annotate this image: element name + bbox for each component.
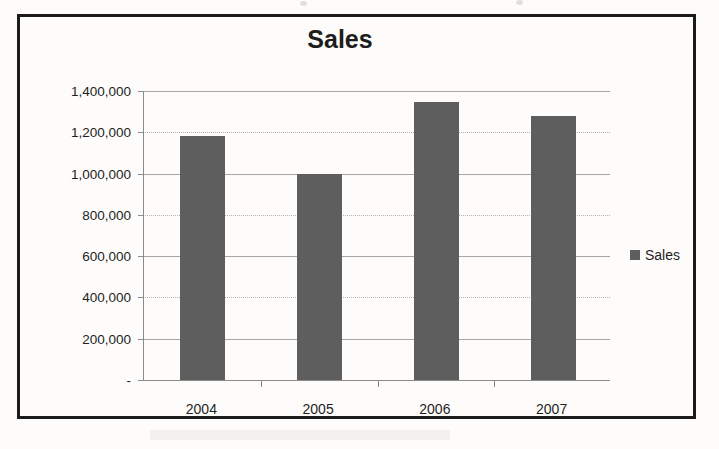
chart-title-container: Sales <box>60 25 620 54</box>
y-axis-tick-label: 800,000 <box>31 207 131 222</box>
bar-2006[interactable] <box>414 102 459 380</box>
x-axis-label-2006: 2006 <box>419 401 450 417</box>
chart-title: Sales <box>307 25 372 53</box>
bar-slot <box>494 91 611 380</box>
y-axis-tick-label: 600,000 <box>31 249 131 264</box>
scan-artifact-speck <box>516 0 523 5</box>
y-axis-tick-label: 1,200,000 <box>31 125 131 140</box>
x-axis-label-2004: 2004 <box>186 401 217 417</box>
y-axis-tick-label: 400,000 <box>31 290 131 305</box>
plot-area: 1,400,0001,200,0001,000,000800,000600,00… <box>143 91 610 380</box>
y-axis-labels: 1,400,0001,200,0001,000,000800,000600,00… <box>31 91 131 380</box>
x-axis-tick <box>261 380 262 387</box>
bar-2005[interactable] <box>297 174 342 380</box>
bar-2007[interactable] <box>531 116 576 380</box>
y-axis-tick <box>138 380 144 381</box>
gridline <box>143 380 610 381</box>
legend-color-swatch <box>630 250 640 260</box>
chart-legend: Sales <box>630 247 680 263</box>
chart-screenshot: Sales 1,400,0001,200,0001,000,000800,000… <box>0 0 719 449</box>
bar-slot <box>261 91 378 380</box>
scan-artifact-speck <box>300 1 307 6</box>
legend-label-sales: Sales <box>645 247 680 263</box>
y-axis-tick-label: 1,400,000 <box>31 84 131 99</box>
bar-slot <box>378 91 495 380</box>
bar-slot <box>144 91 261 380</box>
bar-2004[interactable] <box>180 136 225 380</box>
y-axis-tick-label: 200,000 <box>31 331 131 346</box>
y-axis-tick-label: 1,000,000 <box>31 166 131 181</box>
x-axis-label-2007: 2007 <box>536 401 567 417</box>
x-axis-tick <box>378 380 379 387</box>
scan-artifact-smudge <box>150 430 450 440</box>
x-axis-labels: 2004200520062007 <box>143 393 610 423</box>
x-axis-label-2005: 2005 <box>303 401 334 417</box>
y-axis-tick-label: - <box>31 373 131 388</box>
x-axis-tick <box>494 380 495 387</box>
bars-group <box>144 91 610 380</box>
chart-frame: Sales 1,400,0001,200,0001,000,000800,000… <box>17 14 696 419</box>
